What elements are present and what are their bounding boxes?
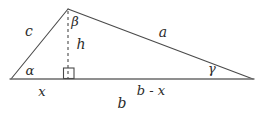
right-angle-square-icon xyxy=(64,68,75,79)
side-label-c: c xyxy=(25,24,33,38)
side-label-b: b xyxy=(118,96,127,110)
geometry-figure: c a b α β γ h x b - x xyxy=(0,0,266,113)
segment-label-x: x xyxy=(38,85,45,98)
altitude-label-h: h xyxy=(76,37,85,51)
side-a-line xyxy=(68,9,253,79)
segment-label-b-minus-x: b - x xyxy=(137,84,165,97)
side-c-line xyxy=(11,9,68,79)
angle-label-gamma: γ xyxy=(208,62,216,75)
angle-label-beta: β xyxy=(71,15,79,28)
angle-label-alpha: α xyxy=(26,64,35,77)
side-label-a: a xyxy=(159,25,167,39)
